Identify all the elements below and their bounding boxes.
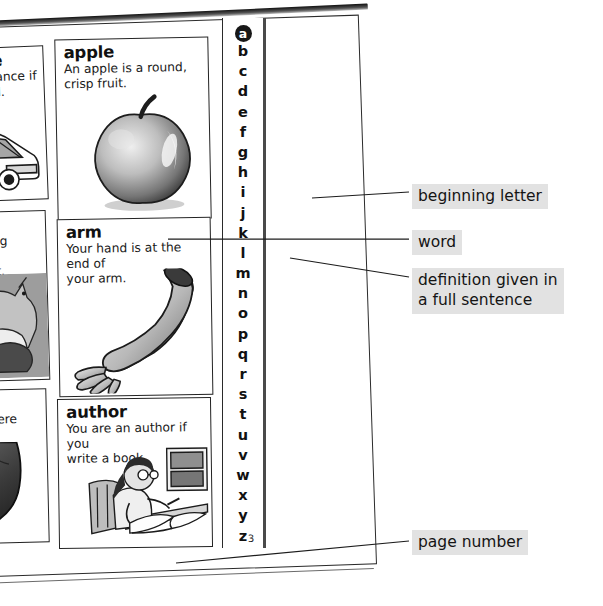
annotation-word: word bbox=[412, 230, 462, 255]
alphabet-strip-letter-n[interactable]: n bbox=[223, 286, 263, 306]
page-number-3: 3 bbox=[248, 533, 255, 544]
alphabet-strip-letter-c[interactable]: c bbox=[223, 64, 263, 84]
entry-apple[interactable]: apple An apple is a round, crisp fruit. bbox=[54, 37, 211, 222]
arm-illustration bbox=[68, 268, 206, 394]
alphabet-strip-letter-e[interactable]: e bbox=[223, 105, 263, 125]
apple-illustration bbox=[80, 90, 202, 214]
alphabet-strip-letter-p[interactable]: p bbox=[223, 327, 263, 347]
entry-ankle-definition-line-1: our ankle is where your bbox=[0, 412, 40, 445]
alphabet-strip-letter-g[interactable]: g bbox=[223, 145, 263, 165]
alphabet-strip-letter-s[interactable]: s bbox=[223, 387, 263, 407]
entry-apple-definition-line-1: An apple is a round, bbox=[64, 60, 202, 78]
entry-ambulance[interactable]: ambulance go in an ambulance if are ill … bbox=[0, 45, 49, 204]
alphabet-strip-letter-x[interactable]: x bbox=[223, 488, 263, 508]
annotation-definition: definition given in a full sentence bbox=[412, 268, 564, 314]
alphabet-strip-letter-t[interactable]: t bbox=[223, 407, 263, 427]
alphabet-strip-letter-y[interactable]: y bbox=[223, 508, 263, 528]
alphabet-strip-letter-f[interactable]: f bbox=[223, 125, 263, 145]
screenshot-canvas: ambulance go in an ambulance if are ill … bbox=[0, 0, 603, 606]
alphabet-strip-letter-h[interactable]: h bbox=[223, 165, 263, 185]
entry-ankle[interactable]: ankle our ankle is where your eg joins y… bbox=[0, 388, 50, 545]
alphabet-strip-letter-l[interactable]: l bbox=[223, 246, 263, 266]
entry-author-headword: author bbox=[66, 402, 210, 421]
entry-author[interactable]: author You are an author if you write a … bbox=[57, 397, 213, 549]
alphabet-strip-letter-r[interactable]: r bbox=[223, 367, 263, 387]
animals-group-illustration bbox=[0, 273, 49, 381]
foot-ankle-illustration bbox=[0, 441, 43, 544]
alphabet-strip-letter-m[interactable]: m bbox=[223, 266, 263, 286]
entry-apple-headword: apple bbox=[63, 42, 207, 62]
annotation-page-number: page number bbox=[412, 530, 528, 555]
alphabet-tab-strip[interactable]: abcdefghijklmnopqrstuvwxyz bbox=[222, 18, 266, 548]
annotation-beginning-letter: beginning letter bbox=[412, 184, 548, 209]
alphabet-strip-letter-v[interactable]: v bbox=[223, 448, 263, 468]
entry-arm-headword: arm bbox=[66, 222, 210, 242]
alphabet-strip-letter-z[interactable]: z bbox=[223, 529, 263, 549]
alphabet-strip-letter-a[interactable]: a bbox=[235, 25, 252, 42]
ambulance-illustration bbox=[0, 108, 48, 199]
alphabet-strip-letter-q[interactable]: q bbox=[223, 347, 263, 367]
alphabet-strip-letter-u[interactable]: u bbox=[223, 428, 263, 448]
alphabet-strip-letter-w[interactable]: w bbox=[223, 468, 263, 488]
entry-arm[interactable]: arm Your hand is at the end of your arm. bbox=[57, 217, 214, 397]
alphabet-strip-letter-k[interactable]: k bbox=[223, 226, 263, 246]
author-writing-illustration bbox=[67, 446, 210, 544]
entry-animal[interactable]: animal animal is a living thing at is no… bbox=[0, 210, 50, 384]
alphabet-strip-letter-i[interactable]: i bbox=[223, 185, 263, 205]
alphabet-strip-letter-d[interactable]: d bbox=[223, 84, 263, 104]
alphabet-strip-letter-j[interactable]: j bbox=[223, 206, 263, 226]
alphabet-strip-letter-o[interactable]: o bbox=[223, 306, 263, 326]
alphabet-strip-letter-b[interactable]: b bbox=[223, 44, 263, 64]
entry-ambulance-definition-line-2: are ill or injured. bbox=[0, 84, 38, 104]
entry-animal-definition-line-1: animal is a living thing bbox=[0, 233, 40, 267]
